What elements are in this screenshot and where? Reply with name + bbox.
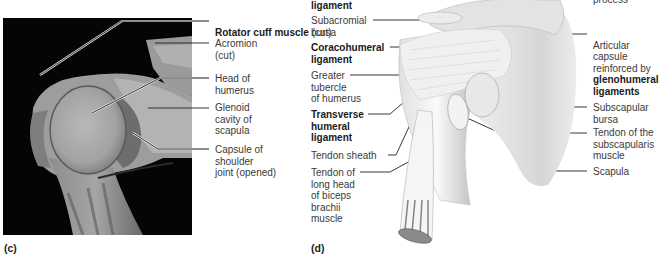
label-tendon-sheath: Tendon sheath [311,150,377,162]
label-glenohumeral-ligaments: glenohumeral ligaments [593,74,659,97]
panel-label-c: (c) [4,242,17,254]
label-glenoid-cavity: Glenoid cavity of scapula [215,102,252,137]
label-head-of-humerus: Head of humerus [215,73,254,96]
label-ligament-top: ligament [311,0,352,12]
label-tendon-biceps: Tendon of long head of biceps brachii mu… [311,167,355,225]
label-transverse-humeral-ligament: Transverse humeral ligament [311,109,364,144]
label-tendon-subscapularis: Tendon of the subscapularis muscle [593,127,654,162]
label-coracohumeral-ligament: Coracohumeral ligament [311,42,384,65]
label-articular-capsule: Articular capsule reinforced by glenohum… [593,28,659,109]
label-rotator-cuff-bold: Rotator cuff muscle [215,27,309,38]
label-subacromial-bursa: Subacromial bursa [311,15,367,38]
panel-label-d: (d) [311,242,324,254]
label-subscapular-bursa: Subscapular bursa [593,102,649,125]
label-process: process [593,0,628,6]
label-scapula: Scapula [593,166,629,178]
label-acromion: Acromion (cut) [215,38,257,61]
label-articular-capsule-text: Articular capsule reinforced by [593,40,651,74]
label-capsule-shoulder-joint: Capsule of shoulder joint (opened) [215,144,276,179]
label-greater-tubercle: Greater tubercle of humerus [311,70,361,105]
